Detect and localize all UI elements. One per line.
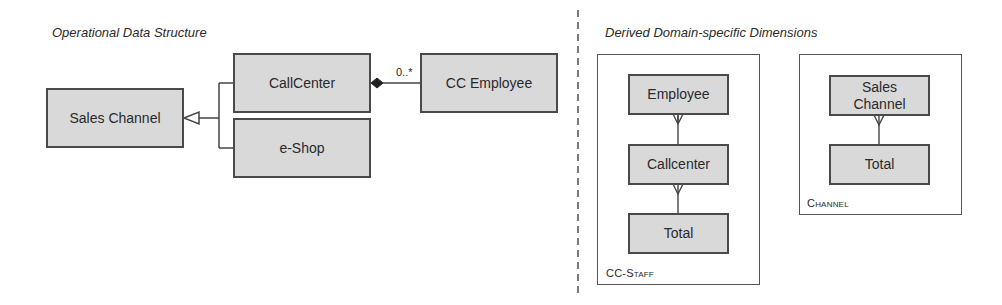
- sales-channel-level: Sales Channel: [829, 75, 930, 116]
- derived-dimensions-title: Derived Domain-specific Dimensions: [605, 25, 817, 40]
- cc-employee-entity: CC Employee: [420, 53, 558, 113]
- employee-level: Employee: [628, 74, 729, 115]
- sales-channel-entity: Sales Channel: [46, 88, 184, 148]
- callcenter-level: Callcenter: [628, 144, 729, 185]
- multiplicity-label: 0..*: [396, 66, 413, 78]
- eshop-entity: e-Shop: [233, 118, 371, 178]
- callcenter-entity: CallCenter: [233, 53, 371, 113]
- composition-diamond-icon: [371, 78, 383, 88]
- cc-staff-total-level: Total: [628, 213, 729, 254]
- cc-staff-dimension-label: CC-Staff: [606, 267, 654, 279]
- operational-structure-title: Operational Data Structure: [52, 25, 207, 40]
- channel-dimension-label: Channel: [807, 197, 849, 209]
- generalization-arrow-icon: [184, 112, 199, 124]
- channel-total-level: Total: [829, 144, 930, 185]
- generalization-connector: [198, 83, 233, 148]
